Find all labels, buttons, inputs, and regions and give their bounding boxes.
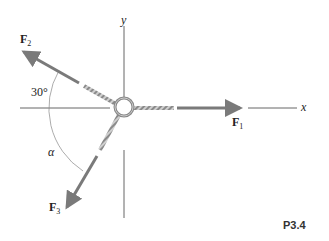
angle-30-label: 30° — [31, 86, 48, 98]
label-f3: F3 — [49, 201, 60, 216]
rope-f3 — [100, 115, 119, 150]
figure-tag: P3.4 — [283, 219, 306, 231]
arrow-f2 — [24, 52, 79, 83]
label-f1: F1 — [232, 116, 243, 131]
rope-f2 — [84, 86, 116, 104]
angle-alpha-label: α — [48, 146, 54, 158]
label-f2: F2 — [20, 33, 31, 48]
y-axis-label: y — [121, 14, 126, 26]
arrow-f3 — [67, 156, 97, 207]
x-axis-label: x — [301, 101, 306, 113]
